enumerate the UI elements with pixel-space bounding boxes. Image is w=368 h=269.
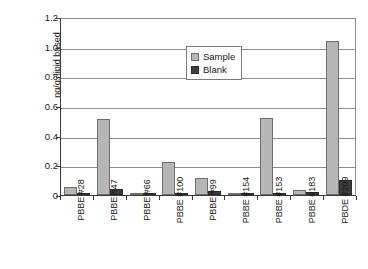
y-tick-label: 0.4 (20, 132, 58, 141)
y-tick-mark (56, 77, 60, 78)
legend: Sample Blank (186, 46, 242, 80)
y-tick-mark (56, 166, 60, 167)
x-axis-category-labels: PBBE #28PBBE #47PBBE #66PBBE #100PBBE #9… (60, 198, 356, 268)
x-tick-label: PBBE #100 (175, 177, 185, 224)
y-tick-label: 0.2 (20, 161, 58, 170)
x-label-cell: PBBE #99 (192, 198, 225, 268)
y-tick-mark (56, 107, 60, 108)
y-tick-label: 0 (20, 191, 58, 200)
x-label-cell: PBBE #183 (290, 198, 323, 268)
x-label-cell: PBBE #66 (126, 198, 159, 268)
x-label-cell: PBBE #153 (257, 198, 290, 268)
x-label-cell: PBBE #47 (93, 198, 126, 268)
x-tick-label: PBBE #28 (76, 179, 86, 221)
x-label-cell: PBDE #209 (323, 198, 356, 268)
legend-swatch-blank-icon (191, 66, 199, 74)
y-tick-mark (56, 18, 60, 19)
y-tick-label: 0.6 (20, 102, 58, 111)
x-tick-mark (356, 196, 357, 200)
legend-swatch-sample-icon (191, 53, 199, 61)
y-tick-label: 1.2 (20, 13, 58, 22)
legend-item-blank: Blank (191, 63, 235, 76)
y-axis-tick-marks (60, 18, 356, 196)
y-tick-label: 0.8 (20, 72, 58, 81)
x-label-cell: PBBE #154 (224, 198, 257, 268)
legend-item-sample: Sample (191, 50, 235, 63)
y-tick-label: 1.0 (20, 43, 58, 52)
x-tick-label: PBBE #154 (241, 177, 251, 224)
legend-label-blank: Blank (203, 63, 227, 76)
x-tick-label: PBBE #66 (142, 179, 152, 221)
x-label-cell: PBBE #28 (60, 198, 93, 268)
bar-chart: ng/g, lipid based 00.20.40.60.81.01.2 PB… (0, 0, 368, 269)
y-tick-mark (56, 48, 60, 49)
legend-label-sample: Sample (203, 50, 235, 63)
x-tick-label: PBBE #47 (109, 179, 119, 221)
y-axis-tick-labels: 00.20.40.60.81.01.2 (18, 0, 58, 269)
x-label-cell: PBBE #100 (159, 198, 192, 268)
x-tick-label: PBBE #183 (307, 177, 317, 224)
y-tick-mark (56, 137, 60, 138)
x-tick-label: PBBE #153 (274, 177, 284, 224)
x-tick-label: PBBE #99 (208, 179, 218, 221)
x-tick-label: PBDE #209 (340, 176, 350, 223)
